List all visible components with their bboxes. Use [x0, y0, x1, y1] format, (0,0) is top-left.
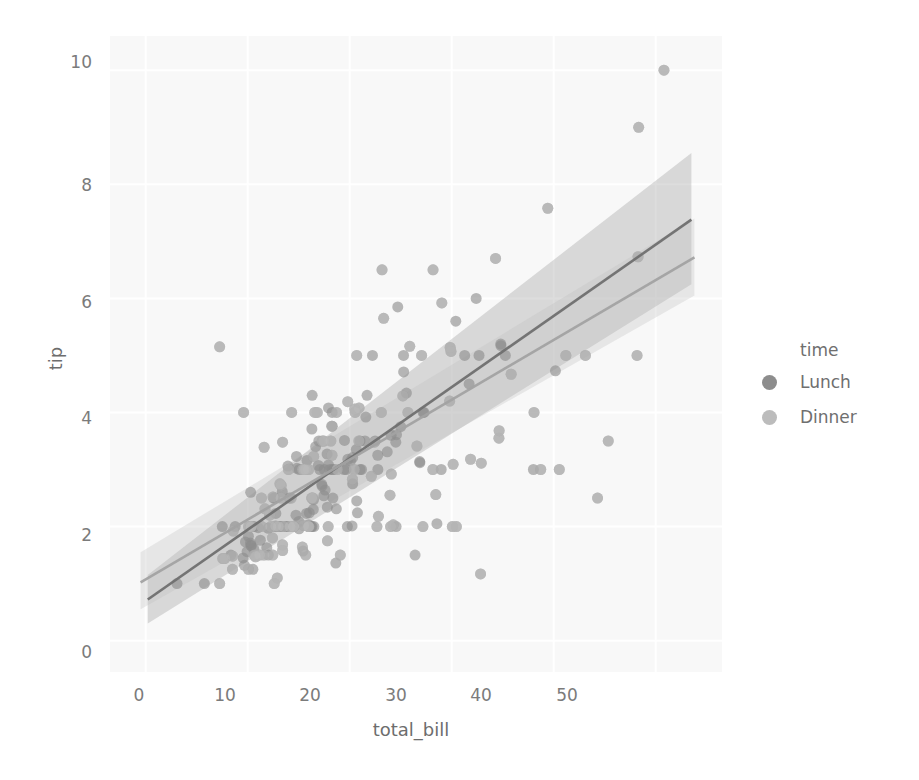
x-tick-label-30: 30: [381, 687, 411, 704]
x-tick-label-40: 40: [466, 687, 496, 704]
legend-marker-dinner-icon: [762, 410, 777, 425]
x-tick-label-10: 10: [210, 687, 240, 704]
legend-label-dinner: Dinner: [800, 407, 857, 427]
y-axis-title: tip: [45, 336, 66, 382]
legend-label-lunch: Lunch: [800, 372, 851, 392]
x-axis-title: total_bill: [336, 719, 486, 740]
y-tick-label-8: 8: [58, 177, 92, 194]
y-tick-label-0: 0: [58, 644, 92, 661]
legend-marker-lunch-icon: [762, 375, 777, 390]
y-tick-label-4: 4: [58, 410, 92, 427]
plot-area: [110, 36, 722, 672]
y-tick-label-10: 10: [58, 54, 92, 71]
x-tick-label-20: 20: [295, 687, 325, 704]
x-tick-label-0: 0: [124, 687, 154, 704]
legend-title: time: [800, 340, 838, 360]
y-tick-label-2: 2: [58, 527, 92, 544]
plot-svg: [110, 36, 722, 672]
x-tick-label-50: 50: [552, 687, 582, 704]
figure-canvas: 10 8 6 4 2 0 0 10 20 30 40 50 tip total_…: [0, 0, 919, 780]
y-tick-label-6: 6: [58, 294, 92, 311]
